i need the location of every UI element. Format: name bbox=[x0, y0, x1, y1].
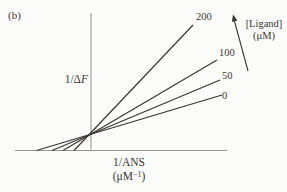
ligand-annotation: [Ligand] (μM) bbox=[241, 18, 287, 42]
series-label-0: 0 bbox=[222, 90, 227, 102]
y-axis-label: 1/ΔF bbox=[50, 73, 88, 85]
x-axis-label: 1/ANS (μM−1) bbox=[97, 156, 161, 182]
series-label-200: 200 bbox=[196, 11, 212, 23]
series-lines-group bbox=[37, 25, 223, 151]
ligand-arrow-head-icon bbox=[232, 15, 238, 23]
series-label-50: 50 bbox=[222, 70, 233, 82]
series-label-100: 100 bbox=[219, 47, 235, 59]
y-axis-label-prefix: 1/Δ bbox=[65, 73, 81, 85]
series-line-50 bbox=[52, 80, 220, 151]
x-axis-label-name: 1/ANS bbox=[97, 156, 161, 169]
ligand-annotation-line1: [Ligand] bbox=[241, 18, 287, 30]
ligand-annotation-line2: (μM) bbox=[241, 30, 287, 42]
reciprocal-plot-figure: (b) 1/ΔF 1/ANS (μM−1) [Ligand] (μM) 0501… bbox=[0, 0, 287, 192]
x-unit-prefix: (μM bbox=[113, 170, 133, 182]
y-axis-label-variable: F bbox=[81, 73, 88, 85]
x-axis-label-unit: (μM−1) bbox=[97, 169, 161, 183]
panel-label: (b) bbox=[8, 9, 21, 21]
series-line-200 bbox=[74, 25, 193, 151]
x-unit-suffix: ) bbox=[141, 170, 145, 182]
series-line-0 bbox=[37, 95, 223, 151]
